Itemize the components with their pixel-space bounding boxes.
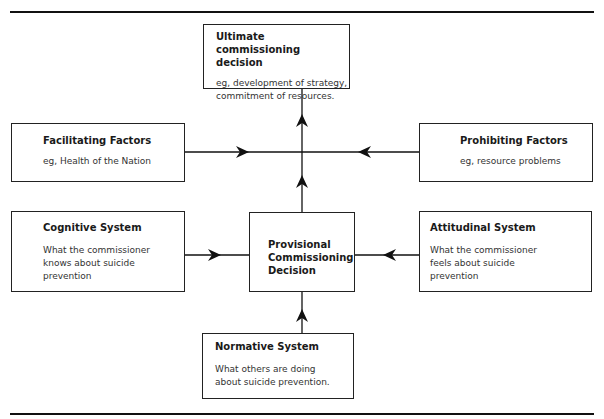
- body-line: What the commissioner: [43, 244, 184, 257]
- title-line: Decision: [268, 264, 354, 277]
- provisional-decision-title: Provisional Commissioning Decision: [268, 238, 354, 277]
- normative-system-box: Normative System What others are doing a…: [202, 333, 354, 399]
- facilitating-factors-box: Facilitating Factors eg, Health of the N…: [11, 123, 185, 182]
- title-line: Provisional: [268, 238, 354, 251]
- body-line: prevention: [430, 270, 591, 283]
- cognitive-system-box: Cognitive System What the commissioner k…: [11, 211, 185, 292]
- attitudinal-system-body: What the commissioner feels about suicid…: [430, 244, 591, 283]
- body-line: What others are doing: [215, 363, 353, 376]
- title-line: Commissioning: [268, 251, 354, 264]
- body-line: feels about suicide: [430, 257, 591, 270]
- body-line: commitment of resources.: [216, 90, 349, 103]
- prohibiting-factors-title: Prohibiting Factors: [460, 134, 592, 147]
- cognitive-system-body: What the commissioner knows about suicid…: [43, 244, 184, 283]
- body-line: prevention: [43, 270, 184, 283]
- body-line: eg, Health of the Nation: [43, 155, 184, 168]
- facilitating-factors-body: eg, Health of the Nation: [43, 155, 184, 168]
- body-line: What the commissioner: [430, 244, 591, 257]
- body-line: eg, development of strategy,: [216, 77, 349, 90]
- normative-system-body: What others are doing about suicide prev…: [215, 363, 353, 389]
- body-line: knows about suicide: [43, 257, 184, 270]
- body-line: about suicide prevention.: [215, 376, 353, 389]
- prohibiting-factors-box: Prohibiting Factors eg, resource problem…: [419, 123, 593, 182]
- attitudinal-system-box: Attitudinal System What the commissioner…: [419, 211, 592, 292]
- cognitive-system-title: Cognitive System: [43, 221, 184, 234]
- ultimate-decision-box: Ultimate commissioning decision eg, deve…: [203, 24, 350, 89]
- ultimate-decision-body: eg, development of strategy, commitment …: [216, 77, 349, 103]
- normative-system-title: Normative System: [215, 340, 353, 353]
- ultimate-decision-title: Ultimate commissioning decision: [216, 30, 349, 69]
- body-line: eg, resource problems: [460, 155, 592, 168]
- facilitating-factors-title: Facilitating Factors: [43, 134, 184, 147]
- attitudinal-system-title: Attitudinal System: [430, 221, 591, 234]
- provisional-decision-box: Provisional Commissioning Decision: [249, 212, 355, 292]
- prohibiting-factors-body: eg, resource problems: [460, 155, 592, 168]
